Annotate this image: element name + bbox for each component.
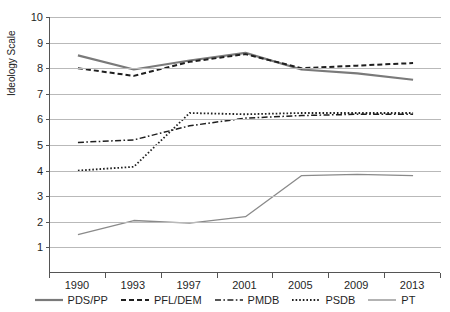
y-tick-4 bbox=[46, 171, 50, 172]
y-tick-9 bbox=[46, 43, 50, 44]
series-line-pfl-dem bbox=[78, 54, 413, 76]
y-tick-10 bbox=[46, 17, 50, 18]
x-tick-5 bbox=[328, 273, 329, 278]
ideology-scale-line-chart: Ideology Scale 12345678910 1990199319972… bbox=[0, 0, 450, 312]
x-tick-2 bbox=[161, 273, 162, 278]
legend-label: PSDB bbox=[325, 294, 355, 306]
legend-label: PT bbox=[401, 294, 415, 306]
plot-area bbox=[49, 17, 440, 273]
legend-label: PFL/DEM bbox=[154, 294, 202, 306]
y-tick-label-6: 6 bbox=[17, 114, 43, 125]
x-tick-6 bbox=[384, 273, 385, 278]
legend-label: PDS/PP bbox=[68, 294, 108, 306]
y-tick-label-3: 3 bbox=[17, 191, 43, 202]
legend-item-pmdb[interactable]: PMDB bbox=[215, 294, 280, 306]
y-tick-label-9: 9 bbox=[17, 38, 43, 49]
legend-swatch-pt bbox=[368, 295, 396, 305]
series-line-pt bbox=[78, 174, 413, 234]
y-tick-label-7: 7 bbox=[17, 89, 43, 100]
legend-swatch-pds-pp bbox=[35, 295, 63, 305]
y-tick-5 bbox=[46, 145, 50, 146]
legend-item-pfl-dem[interactable]: PFL/DEM bbox=[121, 294, 202, 306]
y-tick-6 bbox=[46, 119, 50, 120]
y-tick-7 bbox=[46, 94, 50, 95]
x-tick-7 bbox=[440, 273, 441, 278]
x-tick-label-2009: 2009 bbox=[333, 279, 379, 291]
legend-label: PMDB bbox=[248, 294, 280, 306]
x-tick-label-2005: 2005 bbox=[277, 279, 323, 291]
y-tick-label-8: 8 bbox=[17, 63, 43, 74]
gridline-y-9 bbox=[50, 43, 441, 44]
x-tick-label-1997: 1997 bbox=[166, 279, 212, 291]
y-tick-label-2: 2 bbox=[17, 217, 43, 228]
gridline-y-2 bbox=[50, 222, 441, 223]
gridline-y-8 bbox=[50, 68, 441, 69]
chart-legend: PDS/PPPFL/DEMPMDBPSDBPT bbox=[0, 294, 450, 306]
legend-item-pds-pp[interactable]: PDS/PP bbox=[35, 294, 108, 306]
y-tick-label-10: 10 bbox=[17, 12, 43, 23]
y-tick-8 bbox=[46, 68, 50, 69]
legend-swatch-pfl-dem bbox=[121, 295, 149, 305]
x-tick-3 bbox=[217, 273, 218, 278]
gridline-y-5 bbox=[50, 145, 441, 146]
gridline-y-4 bbox=[50, 171, 441, 172]
x-tick-label-2001: 2001 bbox=[222, 279, 268, 291]
y-tick-2 bbox=[46, 222, 50, 223]
y-tick-label-5: 5 bbox=[17, 140, 43, 151]
x-tick-0 bbox=[49, 273, 50, 278]
x-tick-4 bbox=[272, 273, 273, 278]
legend-swatch-psdb bbox=[292, 295, 320, 305]
x-tick-label-1990: 1990 bbox=[54, 279, 100, 291]
legend-item-pt[interactable]: PT bbox=[368, 294, 415, 306]
series-line-psdb bbox=[78, 113, 413, 171]
gridline-y-10 bbox=[50, 17, 441, 18]
y-tick-1 bbox=[46, 247, 50, 248]
x-tick-label-2013: 2013 bbox=[389, 279, 435, 291]
x-tick-1 bbox=[105, 273, 106, 278]
legend-swatch-pmdb bbox=[215, 295, 243, 305]
legend-item-psdb[interactable]: PSDB bbox=[292, 294, 355, 306]
x-tick-label-1993: 1993 bbox=[110, 279, 156, 291]
gridline-y-1 bbox=[50, 247, 441, 248]
gridline-y-6 bbox=[50, 119, 441, 120]
y-tick-label-1: 1 bbox=[17, 242, 43, 253]
gridline-y-7 bbox=[50, 94, 441, 95]
gridline-y-3 bbox=[50, 196, 441, 197]
y-tick-label-4: 4 bbox=[17, 166, 43, 177]
y-tick-3 bbox=[46, 196, 50, 197]
